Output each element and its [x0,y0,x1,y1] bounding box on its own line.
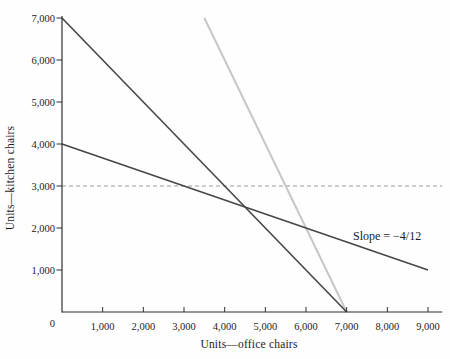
x-tick-label: 9,000 [416,321,440,332]
y-tick-label: 5,000 [31,97,55,108]
gray-steep-line-series [204,18,346,312]
origin-label: 0 [50,318,55,329]
dark-shallow-line-series [62,144,428,270]
slope-annotation: Slope = −4/12 [353,229,421,244]
x-tick-label: 1,000 [91,321,115,332]
x-axis-title: Units—office chairs [200,338,297,350]
y-tick-label: 3,000 [31,181,55,192]
x-tick-label: 8,000 [376,321,400,332]
x-tick-label: 7,000 [335,321,359,332]
y-tick-label: 4,000 [31,139,55,150]
dark-steep-line-series [62,18,347,312]
chart-figure: 1,0002,0003,0004,0005,0006,0007,0008,000… [0,0,450,359]
y-axis-title: Units—kitchen chairs [4,126,16,231]
y-tick-label: 6,000 [31,55,55,66]
x-tick-label: 2,000 [132,321,156,332]
y-tick-label: 7,000 [31,13,55,24]
chart-canvas: 1,0002,0003,0004,0005,0006,0007,0008,000… [0,0,450,359]
y-tick-label: 2,000 [31,223,55,234]
y-tick-label: 1,000 [31,265,55,276]
x-tick-label: 5,000 [254,321,278,332]
x-tick-label: 4,000 [213,321,237,332]
x-tick-label: 3,000 [172,321,196,332]
x-tick-label: 6,000 [294,321,318,332]
